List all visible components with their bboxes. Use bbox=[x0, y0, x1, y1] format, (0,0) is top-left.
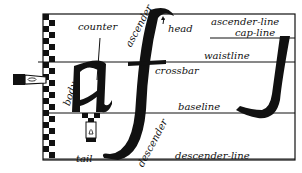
label-counter: counter bbox=[78, 22, 117, 32]
label-waistline: waistline bbox=[204, 51, 250, 61]
label-cap-line: cap-line bbox=[235, 28, 275, 38]
letter-J bbox=[236, 36, 290, 118]
pen-nib-icon bbox=[13, 74, 46, 85]
label-descender-line: descender-line bbox=[175, 151, 250, 161]
label-baseline: baseline bbox=[178, 102, 220, 112]
label-tail: tail bbox=[76, 154, 92, 164]
label-ascender-line: ascender-line bbox=[211, 17, 279, 27]
letterform-diagram: counter ascender head ascender-line cap-… bbox=[0, 0, 302, 173]
checkered-nib-width-scale bbox=[43, 14, 55, 158]
label-crossbar: crossbar bbox=[155, 66, 199, 76]
label-head: head bbox=[168, 24, 193, 34]
letter-a bbox=[72, 38, 112, 142]
